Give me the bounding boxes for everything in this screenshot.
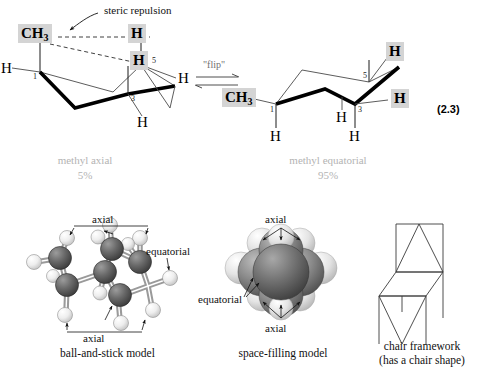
- left-hydrogen-equatorial-right: H: [178, 71, 189, 86]
- left-hydrogen-bottom: H: [137, 115, 148, 130]
- space-filling-equatorial-label: equatorial: [198, 294, 242, 305]
- space-filling-model: [225, 224, 337, 320]
- right-hydrogen-mid: H: [336, 110, 347, 125]
- ball-stick-caption: ball-and-stick model: [25, 348, 190, 360]
- figure-vector-layer: [0, 0, 481, 371]
- ball-stick-equatorial-label: equatorial: [146, 246, 190, 257]
- left-hydrogen-c5-axial: H: [130, 53, 148, 68]
- right-chair-bonds: [250, 54, 399, 128]
- right-hydrogen-lower-right: H: [349, 129, 360, 144]
- left-methyl-label: CH3: [18, 26, 52, 43]
- steric-repulsion-label: steric repulsion: [104, 5, 172, 16]
- right-structure-caption: methyl equatorial: [258, 155, 398, 166]
- ball-stick-axial-top-label: axial: [92, 214, 113, 225]
- space-filling-axial-bottom-label: axial: [265, 323, 286, 334]
- left-structure-percent: 5%: [25, 170, 145, 181]
- left-axial-hydrogen-top: H: [128, 26, 146, 41]
- equilibrium-arrows: [195, 74, 239, 88]
- left-carbon-5-number: 5: [152, 57, 156, 65]
- right-methyl-label: CH3: [222, 90, 256, 107]
- right-structure-percent: 95%: [258, 170, 398, 181]
- chair-framework-caption-line2: (has a chair shape): [363, 355, 481, 367]
- chair-framework-caption-line1: chair framework: [363, 341, 481, 353]
- flip-label: "flip": [203, 60, 225, 70]
- figure-chair-conformers: steric repulsion CH3 H H H H H 1 3 5 met…: [0, 0, 481, 371]
- left-carbon-3-number: 3: [131, 95, 135, 103]
- equation-number: (2.3): [437, 104, 460, 115]
- left-hydrogen-equatorial-left: H: [1, 61, 12, 76]
- right-hydrogen-equatorial: H: [391, 91, 409, 106]
- ball-and-stick-model: [27, 218, 178, 333]
- left-carbon-1-number: 1: [33, 73, 37, 81]
- right-hydrogen-top: H: [386, 44, 404, 59]
- left-structure-caption: methyl axial: [25, 155, 145, 166]
- space-filling-axial-top-label: axial: [265, 214, 286, 225]
- right-carbon-1-number: 1: [270, 106, 274, 114]
- ball-stick-axial-bottom-label: axial: [83, 333, 104, 344]
- chair-framework-drawing: [379, 224, 443, 344]
- right-hydrogen-lower-left: H: [270, 129, 281, 144]
- space-filling-caption: space-filling model: [213, 348, 353, 360]
- right-carbon-3-number: 3: [358, 106, 362, 114]
- right-carbon-5-number: 5: [363, 72, 367, 80]
